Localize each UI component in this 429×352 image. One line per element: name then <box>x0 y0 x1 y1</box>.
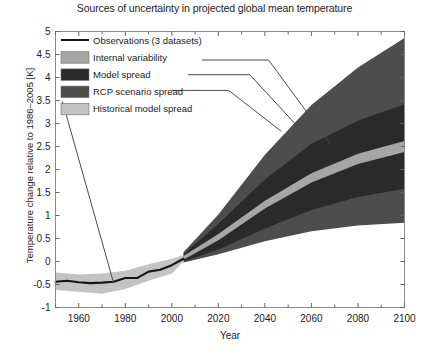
y-tick-label: 5 <box>45 26 51 37</box>
y-tick-labels: -1-0.500.511.522.533.544.55 <box>33 26 51 313</box>
y-axis-label: Temperature change relative to 1986–2005… <box>24 41 35 291</box>
x-tick-label: 2040 <box>254 313 277 324</box>
x-tick-label: 2020 <box>207 313 230 324</box>
y-tick-label: 3.5 <box>37 95 51 106</box>
legend-swatch-rcp-scenario-spread <box>61 86 89 98</box>
legend-label-model-spread: Model spread <box>93 69 151 80</box>
legend-swatch-internal-variability <box>61 52 89 64</box>
figure-container: Sources of uncertainty in projected glob… <box>0 0 429 352</box>
legend-label-internal-variability: Internal variability <box>93 52 167 63</box>
plot-svg: -1-0.500.511.522.533.544.55 196019802000… <box>0 0 429 352</box>
legend-label-observations-3-datasets: Observations (3 datasets) <box>93 35 202 46</box>
legend: Observations (3 datasets)Internal variab… <box>61 35 202 115</box>
y-tick-label: 1 <box>45 210 51 221</box>
y-tick-label: 2 <box>45 164 51 175</box>
legend-label-historical-model-spread: Historical model spread <box>93 103 192 114</box>
y-tick-label: -0.5 <box>33 279 51 290</box>
x-tick-label: 2080 <box>347 313 370 324</box>
y-tick-label: 3 <box>45 118 51 129</box>
band-historical-model-spread <box>56 255 184 294</box>
y-tick-label: 0 <box>45 256 51 267</box>
legend-swatch-historical-model-spread <box>61 103 89 115</box>
y-tick-label: 0.5 <box>37 233 51 244</box>
legend-swatch-model-spread <box>61 69 89 81</box>
chart-title: Sources of uncertainty in projected glob… <box>0 2 429 14</box>
historical-model-spread-leader <box>62 101 113 283</box>
x-tick-label: 1980 <box>114 313 137 324</box>
x-axis-label: Year <box>55 330 405 341</box>
y-tick-label: 1.5 <box>37 187 51 198</box>
y-tick-label: -1 <box>42 302 51 313</box>
y-tick-label: 2.5 <box>37 141 51 152</box>
x-tick-label: 1960 <box>68 313 91 324</box>
x-tick-label: 2060 <box>300 313 323 324</box>
y-tick-label: 4.5 <box>37 49 51 60</box>
x-tick-label: 2100 <box>393 313 416 324</box>
y-tick-label: 4 <box>45 72 51 83</box>
x-tick-labels: 19601980200020202040206020802100 <box>68 313 416 324</box>
legend-label-rcp-scenario-spread: RCP scenario spread <box>93 86 183 97</box>
x-tick-label: 2000 <box>161 313 184 324</box>
